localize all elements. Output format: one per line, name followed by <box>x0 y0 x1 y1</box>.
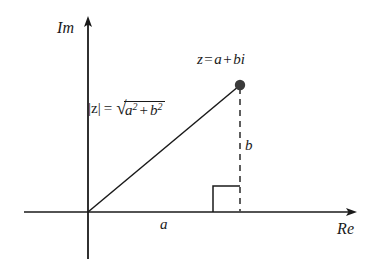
real-axis <box>24 208 357 216</box>
real-axis-label: Re <box>337 221 354 237</box>
diagram-canvas <box>0 0 383 259</box>
radicand-b: b <box>150 102 158 118</box>
magnitude-formula: |z|=√a2+b2 <box>88 101 165 118</box>
magnitude-equals: = <box>101 101 115 116</box>
imaginary-part-label-b: b <box>245 138 253 153</box>
right-angle-marker-corner <box>213 186 240 212</box>
real-part-label-a: a <box>160 217 168 232</box>
point-z-label: z=a+bi <box>197 52 245 67</box>
right-angle-marker <box>213 186 240 212</box>
point-label-equals: = <box>203 51 214 67</box>
imaginary-axis <box>84 16 92 259</box>
point-label-z: z <box>197 51 203 67</box>
radicand-a: a <box>125 102 133 118</box>
magnitude-modulus-bars: |z| <box>88 101 101 116</box>
radicand-a-exponent: 2 <box>133 101 138 112</box>
radicand-plus: + <box>138 102 150 118</box>
radicand-b-exponent: 2 <box>158 101 163 112</box>
point-label-plus: + <box>222 51 233 67</box>
magnitude-radicand: a2+b2 <box>124 101 164 118</box>
point-label-a: a <box>214 51 222 67</box>
complex-plane-diagram: Im Re a b z=a+bi |z|=√a2+b2 <box>0 0 383 259</box>
imaginary-axis-label: Im <box>57 20 74 36</box>
magnitude-radical: √a2+b2 <box>116 101 164 118</box>
point-z-marker <box>235 80 245 90</box>
point-label-bi: bi <box>233 51 245 67</box>
